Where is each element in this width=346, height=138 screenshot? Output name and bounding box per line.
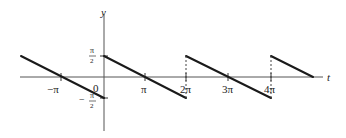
- svg-text:π: π: [90, 46, 94, 55]
- tick-label-2pi: 2π: [180, 83, 192, 95]
- segment-4: [271, 56, 313, 77]
- tick-label-neg-pi: −π: [47, 83, 59, 95]
- tick-label-3pi: 3π: [222, 83, 234, 95]
- svg-text:−: −: [79, 94, 85, 105]
- tick-label-pi: π: [141, 83, 147, 95]
- svg-text:2: 2: [90, 102, 94, 110]
- y-axis-label: y: [100, 6, 106, 18]
- t-axis-label: t: [327, 71, 331, 83]
- tick-label-neg-pi-over-2: − π 2: [79, 91, 96, 110]
- tick-label-pi-over-2: π 2: [89, 46, 96, 65]
- svg-text:π: π: [90, 91, 94, 100]
- svg-text:2: 2: [90, 57, 94, 65]
- tick-label-4pi: 4π: [264, 83, 276, 95]
- sawtooth-chart: y t 0 −π π 2π 3π 4π π 2 − π 2: [0, 0, 346, 138]
